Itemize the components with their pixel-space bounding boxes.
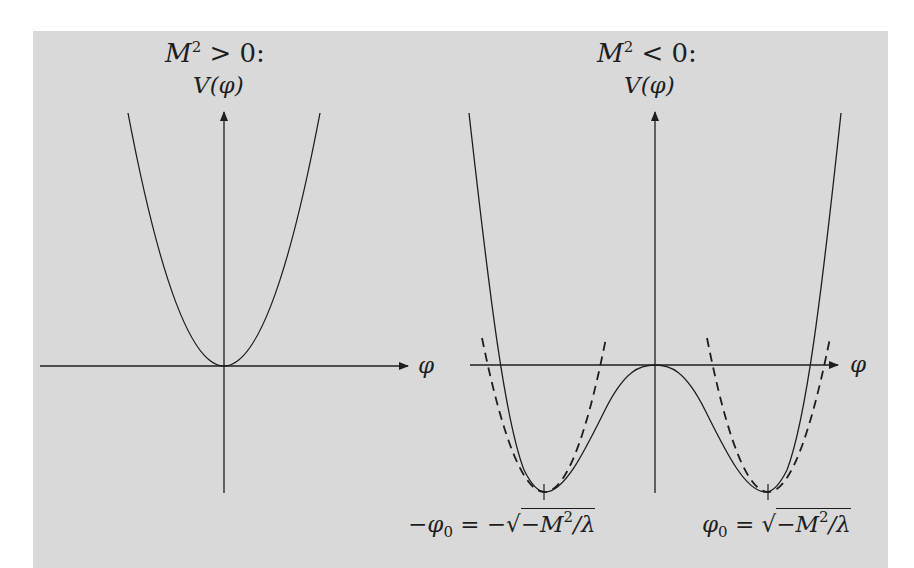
right-panel-title: M2 < 0: (597, 40, 697, 66)
potential-plots (0, 0, 914, 568)
right-plot (469, 112, 841, 500)
left-plot (40, 112, 408, 493)
right-y-axis-label: V(φ) (624, 74, 675, 97)
left-x-axis-label: φ (418, 354, 434, 377)
left-minimum-label: −φ0 = −√−M2/λ (408, 508, 595, 540)
right-minimum-label: φ0 = √−M2/λ (702, 508, 851, 540)
left-y-axis-label: V(φ) (193, 74, 244, 97)
right-x-axis-label: φ (850, 353, 866, 376)
left-panel-title: M2 > 0: (165, 40, 265, 66)
